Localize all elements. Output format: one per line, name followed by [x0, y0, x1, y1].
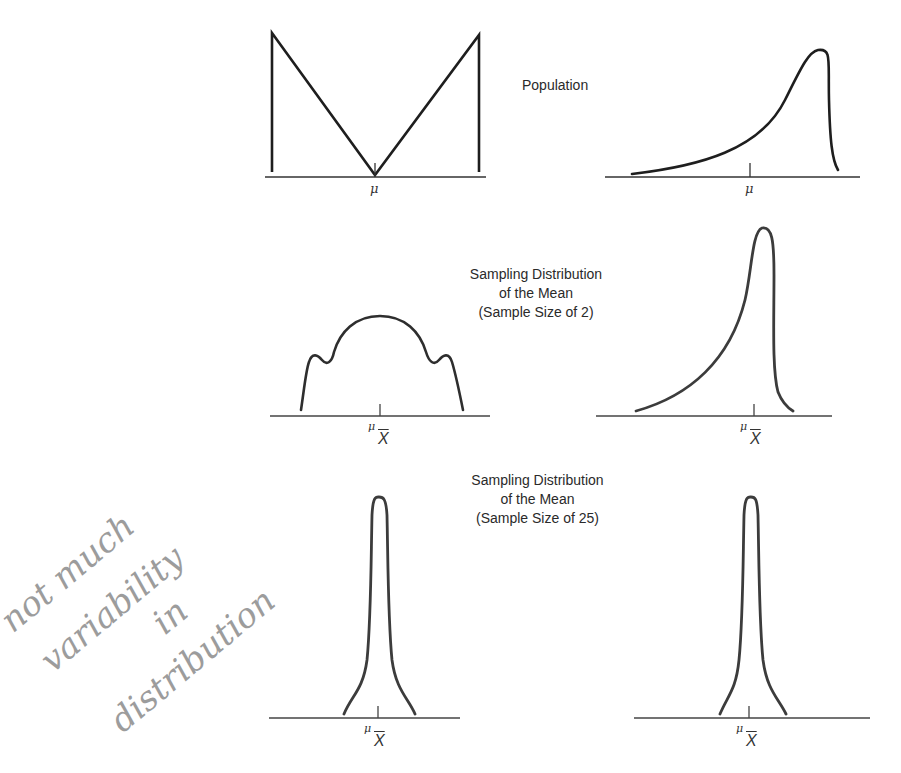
caption-sample-size-25: Sampling Distribution of the Mean (Sampl… [455, 471, 620, 528]
mu-label: μ [745, 181, 753, 196]
caption-line: Sampling Distribution [455, 471, 620, 490]
caption-line: (Sample Size of 2) [456, 303, 616, 322]
sampling-n2-dome-curve [301, 316, 463, 410]
mu-label: μ [370, 181, 378, 196]
caption-line: Population [522, 76, 627, 95]
mu-xbar-label: μ X [368, 420, 398, 454]
caption-population: Population [522, 76, 627, 95]
sampling-distribution-figure: Population Sampling Distribution of the … [0, 0, 901, 773]
mu-symbol: μ [740, 420, 747, 433]
sampling-n25-bell-curve-right [720, 497, 786, 714]
mu-symbol: μ [368, 420, 375, 433]
xbar-symbol: X [374, 732, 385, 750]
figure-curves [0, 0, 901, 773]
mu-symbol: μ [736, 722, 743, 735]
caption-line: of the Mean [456, 284, 616, 303]
population-skewed-curve [632, 50, 838, 174]
caption-line: Sampling Distribution [456, 265, 616, 284]
caption-line: of the Mean [455, 490, 620, 509]
mu-xbar-label: μ X [736, 722, 766, 756]
sampling-n25-bell-curve-left [344, 497, 415, 714]
xbar-symbol: X [750, 430, 761, 448]
xbar-symbol: X [378, 430, 389, 448]
mu-symbol: μ [364, 722, 371, 735]
population-u-shaped-curve [272, 33, 479, 175]
sampling-n2-skewed-curve [636, 228, 793, 411]
mu-xbar-label: μ X [740, 420, 770, 454]
caption-line: (Sample Size of 25) [455, 509, 620, 528]
caption-sample-size-2: Sampling Distribution of the Mean (Sampl… [456, 265, 616, 322]
xbar-symbol: X [746, 732, 757, 750]
mu-xbar-label: μ X [364, 722, 394, 756]
